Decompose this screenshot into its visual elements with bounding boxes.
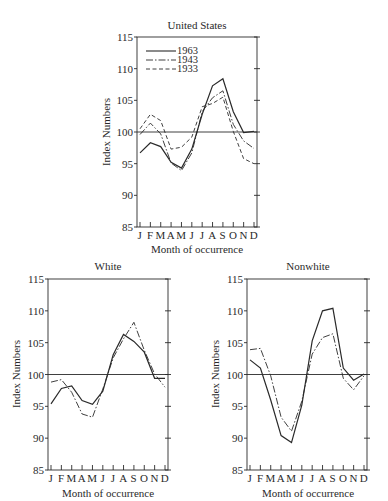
y-tick-label: 105 (117, 94, 134, 106)
y-tick-label: 115 (227, 273, 244, 285)
x-tick-label: J (189, 229, 194, 241)
y-tick-label: 90 (232, 432, 244, 444)
x-axis-title: Month of occurrence (62, 487, 154, 499)
y-tick-label: 95 (122, 158, 134, 170)
y-axis-title: Index Numbers (10, 340, 22, 408)
x-tick-label: M (266, 472, 276, 484)
x-tick-label: N (150, 472, 158, 484)
x-tick-label: M (87, 472, 97, 484)
x-tick-label: M (67, 472, 77, 484)
x-tick-label: A (167, 229, 175, 241)
x-tick-label: A (208, 229, 216, 241)
x-tick-label: O (229, 229, 237, 241)
x-tick-label: J (100, 472, 105, 484)
x-tick-label: J (248, 472, 253, 484)
series-lines (250, 308, 364, 442)
y-tick-label: 110 (28, 305, 45, 317)
panel-united-states: United States 859095100105110115 JFMAMJJ… (100, 19, 260, 255)
figure: United States 859095100105110115 JFMAMJJ… (0, 0, 388, 501)
y-tick-label: 85 (232, 464, 244, 476)
y-tick-label: 115 (28, 273, 45, 285)
x-axis: JFMAMJJASOND (49, 465, 170, 484)
y-tick-label: 110 (117, 63, 134, 75)
y-tick-label: 90 (122, 189, 134, 201)
panel-white: White 859095100105110115 JFMAMJJASOND In… (10, 260, 171, 499)
y-tick-label: 105 (227, 337, 244, 349)
x-tick-label: A (78, 472, 86, 484)
panel-nonwhite: Nonwhite 859095100105110115 JFMAMJJASOND… (209, 260, 370, 499)
x-tick-label: O (339, 472, 347, 484)
series-line-1963 (140, 79, 254, 168)
x-axis: JFMAMJJASOND (138, 222, 259, 241)
series-lines (140, 79, 254, 171)
y-tick-label: 85 (33, 464, 45, 476)
x-tick-label: N (239, 229, 247, 241)
x-tick-label: O (140, 472, 148, 484)
y-tick-label: 100 (28, 369, 45, 381)
y-tick-label: 100 (227, 369, 244, 381)
panel-title: Nonwhite (286, 260, 330, 272)
y-axis-title: Index Numbers (100, 98, 112, 166)
y-axis-title: Index Numbers (209, 340, 221, 408)
x-tick-label: A (318, 472, 326, 484)
x-tick-label: F (257, 472, 264, 484)
x-tick-label: D (360, 472, 368, 484)
x-tick-label: S (330, 472, 337, 484)
y-tick-label: 95 (33, 400, 45, 412)
y-tick-label: 115 (117, 31, 134, 43)
x-tick-label: D (250, 229, 258, 241)
y-tick-label: 110 (227, 305, 244, 317)
panel-title: White (95, 260, 122, 272)
series-line-1943 (140, 91, 254, 171)
x-tick-label: J (200, 229, 205, 241)
x-tick-label: J (111, 472, 116, 484)
y-tick-label: 85 (122, 221, 134, 233)
x-tick-label: N (349, 472, 357, 484)
x-tick-label: S (131, 472, 138, 484)
series-line-1943 (51, 322, 165, 417)
x-tick-label: S (220, 229, 227, 241)
legend: 1963 1943 1933 (146, 45, 198, 74)
y-tick-label: 90 (33, 432, 45, 444)
x-tick-label: J (138, 229, 143, 241)
x-tick-label: A (277, 472, 285, 484)
legend-item-1933: 1933 (146, 63, 198, 74)
legend-label: 1933 (177, 63, 198, 74)
y-tick-label: 105 (28, 337, 45, 349)
series-line-1963 (250, 308, 364, 442)
x-tick-label: J (299, 472, 304, 484)
x-tick-label: F (58, 472, 65, 484)
x-tick-label: J (310, 472, 315, 484)
series-lines (51, 322, 165, 417)
x-axis-title: Month of occurrence (151, 243, 243, 255)
x-tick-label: D (161, 472, 169, 484)
x-axis: JFMAMJJASOND (248, 465, 369, 484)
x-tick-label: M (156, 229, 166, 241)
chart-canvas: United States 859095100105110115 JFMAMJJ… (0, 0, 388, 501)
x-tick-label: J (49, 472, 54, 484)
series-line-1943 (250, 334, 364, 431)
x-tick-label: A (119, 472, 127, 484)
y-tick-label: 100 (117, 126, 134, 138)
panel-title: United States (168, 19, 227, 31)
x-tick-label: M (286, 472, 296, 484)
x-axis-title: Month of occurrence (262, 487, 354, 499)
x-tick-label: M (176, 229, 186, 241)
x-tick-label: F (147, 229, 154, 241)
series-line-1963 (51, 334, 165, 404)
y-tick-label: 95 (232, 400, 244, 412)
